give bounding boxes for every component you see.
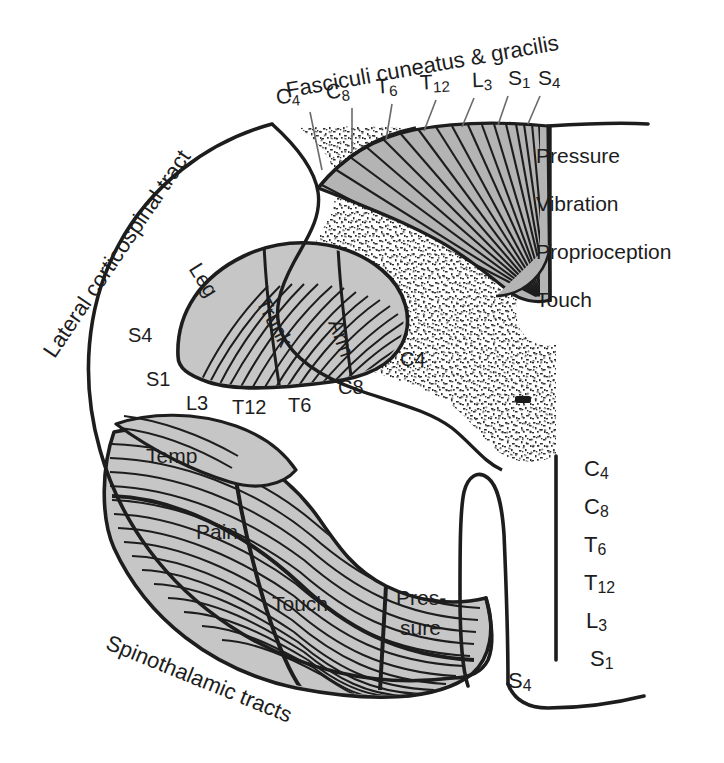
dorsal-column-segment-s4: S4 [538,66,560,91]
spinothalamic-segment-c4: C4 [584,456,609,483]
lateral-corticospinal-tract-region [178,243,410,396]
central-canal-mark [515,396,531,403]
spinothalamic-modality-pressure-line2: sure [400,616,441,640]
dorsal-column-segment-s1: S1 [508,66,530,91]
dorsal-column-segment-c4: C4 [275,83,301,111]
modality-pressure: Pressure [536,144,620,168]
corticospinal-segment-l3: L3 [186,392,208,415]
spinothalamic-modality-touch: Touch [272,592,328,616]
spinothalamic-segment-c8: C8 [584,494,609,521]
spinothalamic-modality-temp: Temp [146,444,197,468]
spinothalamic-modality-pain: Pain [196,520,238,544]
spinothalamic-segment-t6: T6 [584,532,606,559]
spinothalamic-segment-l3: L3 [586,608,607,635]
dorsal-column-segment-t12: T12 [419,69,450,96]
figure-canvas: Fasciculi cuneatus & gracilis C4 C8 T6 T… [0,0,724,763]
modality-touch: Touch [536,288,592,312]
dorsal-column-segment-c8: C8 [325,78,351,105]
corticospinal-segment-c8: C8 [338,376,364,399]
corticospinal-segment-s1: S1 [146,368,170,391]
spinothalamic-modality-pressure-line1: Pres- [396,586,446,610]
modality-vibration: Vibration [536,192,619,216]
spinothalamic-segment-s4: S4 [508,668,532,695]
modality-proprioception: Proprioception [536,240,671,264]
corticospinal-segment-t6: T6 [288,394,311,417]
dorsal-column-segment-t6: T6 [375,73,398,100]
spinothalamic-segment-t12: T12 [584,570,615,597]
dorsal-column-segment-l3: L3 [472,68,493,94]
spinothalamic-segment-s1: S1 [590,646,614,673]
corticospinal-segment-c4: C4 [400,348,426,371]
corticospinal-segment-t12: T12 [232,396,266,419]
corticospinal-segment-s4: S4 [128,324,152,347]
